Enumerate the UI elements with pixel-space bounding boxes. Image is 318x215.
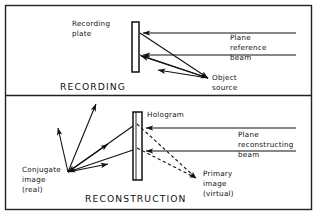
reconstruction-panel: Hologram Plane reconstructing beam Conju… — [22, 104, 296, 204]
object-source-label: Object source — [212, 73, 238, 92]
recording-plate-label-line1: Recording — [72, 19, 110, 28]
plane-reference-beam-rays — [143, 33, 296, 55]
object-source-label-line2: source — [212, 83, 238, 92]
plane-reconstructing-beam-label: Plane reconstructing beam — [238, 130, 294, 159]
recording-panel-title: RECORDING — [60, 81, 126, 92]
object-source-label-line1: Object — [212, 73, 237, 82]
recording-panel: Recording plate Plane reference beam Obj… — [60, 19, 296, 92]
plane-reference-beam-label-line3: beam — [230, 53, 251, 62]
recording-plate-label: Recording plate — [72, 19, 110, 38]
conjugate-image-label-line3: (real) — [22, 185, 43, 194]
plane-reconstructing-beam-label-line3: beam — [238, 150, 259, 159]
plane-reference-beam-label: Plane reference beam — [230, 33, 267, 62]
hologram-label: Hologram — [147, 110, 184, 119]
holography-figure: Recording plate Plane reference beam Obj… — [0, 0, 318, 215]
plane-reconstructing-beam-label-line1: Plane — [238, 130, 259, 139]
hologram-plate-glyph — [133, 112, 142, 180]
primary-image-label: Primary image (virtual) — [203, 169, 234, 198]
primary-image-label-line3: (virtual) — [203, 189, 234, 198]
primary-image-label-line2: image — [203, 179, 227, 188]
recording-plate-label-line2: plate — [72, 29, 92, 38]
conjugate-image-label-line1: Conjugate — [22, 165, 61, 174]
conjugate-image-diverging-rays — [58, 104, 108, 172]
figure-frame — [6, 6, 312, 210]
conjugate-image-label: Conjugate image (real) — [22, 165, 61, 194]
conjugate-image-label-line2: image — [22, 175, 46, 184]
plane-reconstructing-beam-label-line2: reconstructing — [238, 140, 294, 149]
plane-reference-beam-label-line1: Plane — [230, 33, 251, 42]
plane-reference-beam-label-line2: reference — [230, 43, 267, 52]
primary-image-label-line1: Primary — [203, 169, 233, 178]
diagram-canvas: Recording plate Plane reference beam Obj… — [0, 0, 318, 215]
recording-plate-glyph — [132, 22, 139, 72]
reconstruction-panel-title: RECONSTRUCTION — [85, 193, 187, 204]
